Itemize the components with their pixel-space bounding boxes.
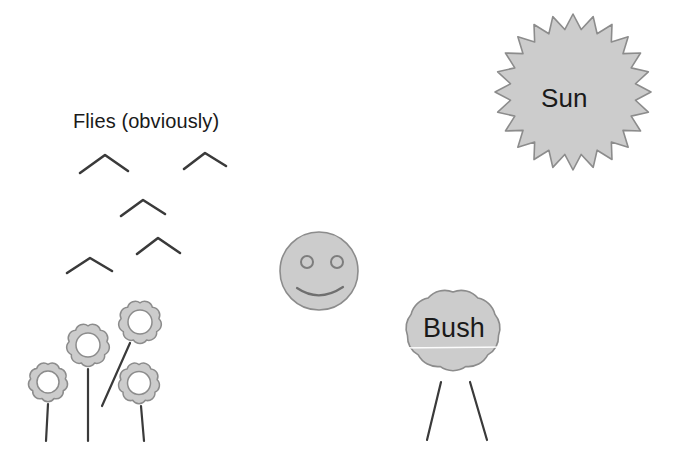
flower-icon <box>119 301 162 343</box>
scan-line-artifact <box>394 347 516 348</box>
flower-center <box>128 372 151 395</box>
flies-label: Flies (obviously) <box>73 110 219 133</box>
right-eye-icon <box>331 256 343 268</box>
flower-center <box>37 371 59 393</box>
chevron-fly-icon <box>121 200 165 216</box>
flower-group <box>28 301 161 441</box>
chevron-fly-icon <box>137 238 180 254</box>
flower-icon <box>119 363 160 403</box>
scene-canvas: Flies (obviously) Sun Bush <box>0 0 678 468</box>
left-eye-icon <box>301 256 313 268</box>
scene-drawing <box>0 0 678 468</box>
flower-stem <box>46 404 48 441</box>
flower-center <box>76 333 100 357</box>
chevron-fly-icon <box>184 153 226 169</box>
chevron-fly-icon <box>67 258 112 273</box>
chevron-fly-icon <box>80 155 128 173</box>
flower-icon <box>67 324 110 366</box>
bush-stem <box>427 382 441 440</box>
flies-group <box>67 153 226 273</box>
flower-stem <box>141 406 144 441</box>
smiley-face-icon <box>280 232 358 310</box>
flower-icon <box>28 363 67 402</box>
flower-center <box>128 310 152 334</box>
bush-label: Bush <box>423 313 485 344</box>
sun-label: Sun <box>541 83 588 114</box>
bush-stem <box>470 382 487 440</box>
